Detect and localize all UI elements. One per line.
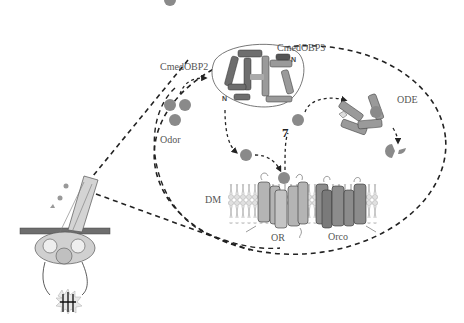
membrane-label: DM	[205, 194, 221, 205]
hook-arrow-glyph: 7	[282, 125, 289, 140]
action-potential-icon	[56, 289, 82, 314]
obp2-label: CmedOBP2	[160, 61, 208, 72]
diagram-canvas: Odor N N CmedOBP2 CmedOBP3 7 ODE	[0, 0, 464, 323]
obp3-label: CmedOBP3	[277, 42, 325, 53]
odor-label: Odor	[160, 134, 181, 145]
arrow-ode-to-degraded	[393, 128, 398, 142]
arrow-odor-to-or	[255, 155, 280, 170]
arrow-obp-to-odor	[225, 110, 236, 152]
inner-dashed-path	[154, 88, 280, 248]
ode-label: ODE	[397, 94, 418, 105]
n-terminus-label-obp3: N	[291, 56, 296, 63]
degraded-odor	[385, 144, 406, 158]
free-odor-molecule	[240, 149, 252, 161]
ode-enzyme	[338, 93, 384, 135]
released-odor-molecule	[292, 114, 304, 126]
orco-label: Orco	[328, 231, 348, 242]
n-terminus-label-obp2: N	[222, 95, 227, 102]
or-label: OR	[271, 232, 285, 243]
